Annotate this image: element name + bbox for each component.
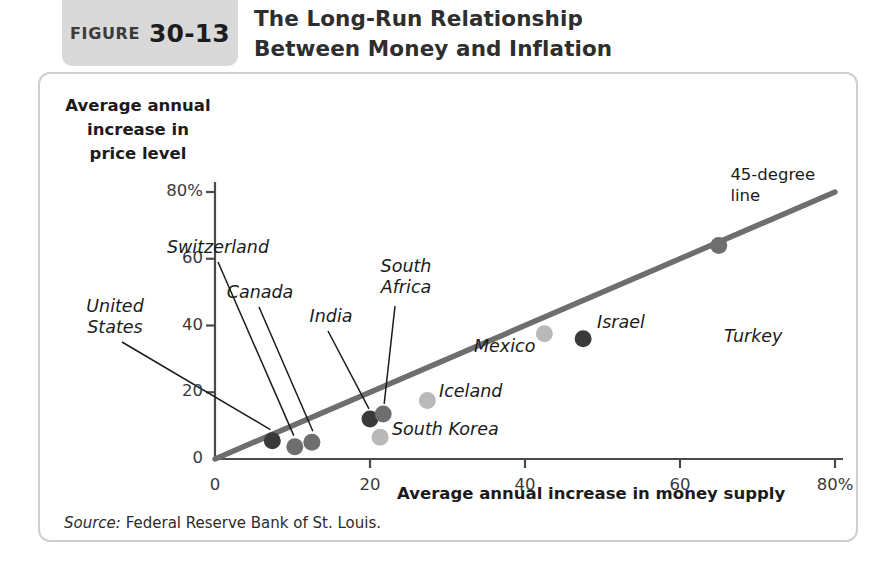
y-axis-tick-label-20: 20: [123, 381, 203, 400]
data-point-label-israel: Israel: [597, 312, 677, 333]
data-point-israel: [575, 330, 592, 347]
figure-badge-word: FIGURE: [70, 24, 140, 43]
figure-title-line-1: The Long-Run Relationship: [254, 4, 612, 34]
data-point-label-south-africa: SouthAfrica: [358, 256, 454, 297]
data-point-switzerland: [286, 438, 303, 455]
data-point-label-india: India: [290, 306, 372, 327]
y-axis-tick-label-80: 80%: [123, 181, 203, 200]
figure-title: The Long-Run Relationship Between Money …: [254, 4, 612, 63]
chart-panel: Average annual increase in price level A…: [38, 72, 858, 542]
figure-badge: FIGURE 30-13: [62, 0, 238, 66]
x-axis-tick-label-20: 20: [330, 475, 410, 494]
figure-badge-number: 30-13: [149, 19, 230, 48]
source-note: Source: Federal Reserve Bank of St. Loui…: [64, 514, 381, 532]
source-text: Federal Reserve Bank of St. Louis.: [126, 514, 381, 532]
data-point-label-united-states: UnitedStates: [66, 296, 164, 337]
data-point-label-iceland: Iceland: [439, 381, 539, 402]
forty-five-degree-line-label-line-2: line: [730, 186, 815, 207]
data-point-label-canada: Canada: [208, 282, 312, 303]
data-point-label-switzerland: Switzerland: [147, 237, 289, 258]
data-point-canada: [303, 434, 320, 451]
figure-header: FIGURE 30-13 The Long-Run Relationship B…: [0, 0, 893, 72]
figure-title-line-2: Between Money and Inflation: [254, 34, 612, 64]
data-point-label-united-states-line-1: United: [66, 296, 164, 317]
x-axis-tick-label-0: 0: [175, 475, 255, 494]
data-point-label-south-korea: South Korea: [392, 419, 552, 440]
data-point-iceland: [419, 392, 436, 409]
source-label: Source:: [64, 514, 121, 532]
y-axis-tick-label-0: 0: [123, 448, 203, 467]
forty-five-degree-line-label: 45-degree line: [730, 165, 815, 206]
leader-line-south-africa: [384, 306, 395, 404]
data-point-label-mexico: Mexico: [474, 336, 566, 357]
x-axis-tick-label-40: 40: [485, 475, 565, 494]
data-point-label-united-states-line-2: States: [66, 317, 164, 338]
x-axis-tick-label-80: 80%: [795, 475, 875, 494]
leader-line-india: [328, 331, 369, 409]
forty-five-degree-line-label-line-1: 45-degree: [730, 165, 815, 186]
data-point-label-south-africa-line-2: Africa: [358, 277, 454, 298]
data-point-south-africa: [375, 405, 392, 422]
data-point-turkey: [710, 237, 727, 254]
data-point-united-states: [264, 432, 281, 449]
x-axis-tick-label-60: 60: [640, 475, 720, 494]
data-point-label-south-africa-line-1: South: [358, 256, 454, 277]
data-point-label-turkey: Turkey: [724, 326, 816, 347]
data-point-south-korea: [372, 429, 389, 446]
plot-area: 020406080%020406080% UnitedStatesSwitzer…: [40, 74, 860, 544]
